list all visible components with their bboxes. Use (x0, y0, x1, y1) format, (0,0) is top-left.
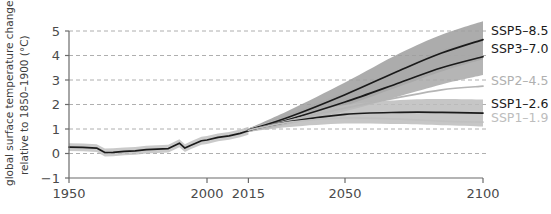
x-tick-label-2000: 2000 (190, 186, 223, 201)
y-tick-label-1: 1 (52, 122, 60, 137)
y-axis-title-line-1: global surface temperature change (3, 1, 15, 186)
x-tick-label-2015: 2015 (232, 186, 265, 201)
y-axis-title-line-2: relative to 1850–1900 (°C) (18, 35, 30, 175)
y-tick-label-4: 4 (52, 48, 60, 63)
legend-label-SSP585[interactable]: SSP5–8.5 (491, 23, 549, 38)
legend-label-SSP245[interactable]: SSP2–4.5 (491, 73, 549, 88)
historical-band (69, 127, 248, 157)
legend: SSP5–8.5SSP3–7.0SSP2–4.5SSP1–2.6SSP1–1.9 (491, 23, 549, 125)
chart-canvas: 19502000201520502100 −1012345 global sur… (0, 0, 551, 214)
y-axis-tick-labels: −1012345 (41, 24, 60, 186)
y-tick-label-2: 2 (52, 97, 60, 112)
legend-label-SSP119[interactable]: SSP1–1.9 (491, 110, 549, 125)
historical-uncertainty-band (69, 127, 248, 157)
x-tick-label-2050: 2050 (328, 186, 361, 201)
climate-projection-chart: 19502000201520502100 −1012345 global sur… (0, 0, 551, 214)
y-axis-title: global surface temperature change relati… (3, 1, 30, 186)
legend-label-SSP126[interactable]: SSP1–2.6 (491, 96, 549, 111)
x-tick-label-1950: 1950 (52, 186, 85, 201)
legend-label-SSP370[interactable]: SSP3–7.0 (491, 41, 549, 56)
y-tick-label--1: −1 (41, 171, 60, 186)
y-tick-label-3: 3 (52, 73, 60, 88)
projection-bands (248, 21, 483, 132)
x-axis-tick-labels: 19502000201520502100 (52, 186, 499, 201)
y-tick-label-5: 5 (52, 24, 60, 39)
y-tick-label-0: 0 (52, 146, 60, 161)
x-tick-label-2100: 2100 (466, 186, 499, 201)
